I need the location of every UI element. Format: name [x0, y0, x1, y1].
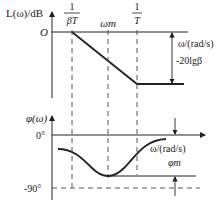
magnitude-y-label: L(ω)/dB [6, 7, 43, 20]
minus90-degree-label: -90° [24, 183, 41, 194]
magnitude-plot: L(ω)/dB O 1 βT ωm 1 T ω/(rad/s) -20lgβ [6, 1, 213, 188]
corner2-denominator: T [134, 15, 141, 26]
center-freq-label: ωm [100, 17, 116, 29]
phase-x-label: ω/(rad/s) [150, 143, 185, 155]
phase-y-label: φ(ω) [26, 112, 48, 125]
magnitude-asymptote [72, 32, 184, 84]
bode-diagram-svg: L(ω)/dB O 1 βT ωm 1 T ω/(rad/s) -20lgβ φ… [0, 0, 224, 212]
corner2-numerator: 1 [135, 1, 140, 12]
corner1-denominator: βT [66, 15, 79, 26]
phase-max-label: φm [168, 157, 181, 168]
origin-label: O [40, 26, 48, 38]
zero-degree-label: 0° [36, 130, 45, 141]
magnitude-x-label: ω/(rad/s) [178, 38, 213, 50]
gain-label: -20lgβ [176, 55, 202, 66]
lag-compensator-bode-diagram: L(ω)/dB O 1 βT ωm 1 T ω/(rad/s) -20lgβ φ… [0, 0, 224, 212]
phase-plot: φ(ω) 0° -90° ω/(rad/s) φm [24, 112, 205, 200]
corner1-numerator: 1 [70, 1, 75, 12]
